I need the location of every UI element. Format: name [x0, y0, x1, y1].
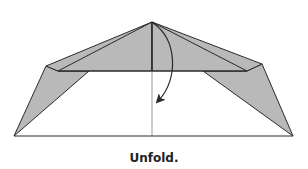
lower-right-flap — [203, 64, 293, 136]
step-caption: Unfold. — [0, 151, 308, 165]
upper-right-flap — [152, 22, 262, 71]
upper-left-flap — [46, 22, 152, 71]
lower-left-flap — [14, 66, 89, 136]
origami-diagram — [0, 0, 308, 169]
